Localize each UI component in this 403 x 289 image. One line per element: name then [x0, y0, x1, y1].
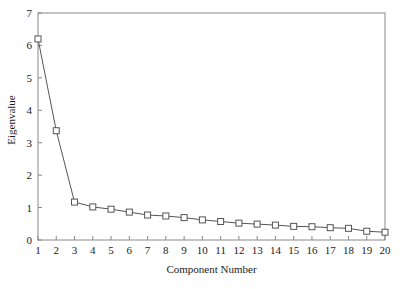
data-point-marker	[382, 229, 388, 235]
x-tick-label: 11	[215, 244, 226, 256]
x-tick-label: 18	[343, 244, 355, 256]
data-point-marker	[72, 199, 78, 205]
plot-canvas: 012345671234567891011121314151617181920	[0, 0, 403, 289]
data-point-marker	[108, 206, 114, 212]
x-tick-label: 5	[108, 244, 114, 256]
data-point-marker	[181, 215, 187, 221]
y-tick-label: 4	[27, 104, 33, 116]
data-point-marker	[199, 217, 205, 223]
y-tick-label: 5	[27, 72, 33, 84]
x-tick-label: 6	[127, 244, 133, 256]
y-tick-label: 2	[27, 169, 33, 181]
y-tick-label: 6	[27, 39, 33, 51]
x-tick-label: 13	[252, 244, 264, 256]
data-point-marker	[272, 222, 278, 228]
data-point-marker	[218, 219, 224, 225]
data-point-marker	[327, 225, 333, 231]
data-point-marker	[254, 221, 260, 227]
x-tick-label: 3	[72, 244, 78, 256]
y-tick-label: 1	[27, 202, 33, 214]
data-point-marker	[309, 224, 315, 230]
data-point-marker	[145, 212, 151, 218]
data-point-marker	[53, 128, 59, 134]
data-point-marker	[126, 209, 132, 215]
scree-plot-figure: Eigenvalue 01234567123456789101112131415…	[0, 0, 403, 289]
x-tick-label: 16	[306, 244, 318, 256]
x-tick-label: 4	[90, 244, 96, 256]
data-point-marker	[35, 36, 41, 42]
x-axis-title: Component Number	[38, 263, 385, 275]
x-tick-label: 15	[288, 244, 300, 256]
y-tick-label: 7	[27, 7, 33, 19]
x-tick-label: 1	[35, 244, 41, 256]
data-line	[38, 39, 385, 232]
y-tick-label: 0	[27, 234, 33, 246]
x-tick-label: 10	[197, 244, 209, 256]
x-tick-label: 8	[163, 244, 169, 256]
x-tick-label: 19	[361, 244, 373, 256]
data-point-marker	[345, 225, 351, 231]
x-tick-label: 7	[145, 244, 151, 256]
data-point-marker	[364, 228, 370, 234]
x-tick-label: 12	[233, 244, 244, 256]
x-tick-label: 20	[380, 244, 392, 256]
data-point-marker	[163, 213, 169, 219]
data-point-marker	[291, 223, 297, 229]
x-tick-label: 9	[181, 244, 187, 256]
data-point-marker	[90, 204, 96, 210]
data-point-marker	[236, 220, 242, 226]
x-tick-label: 2	[54, 244, 60, 256]
y-tick-label: 3	[27, 137, 33, 149]
x-tick-label: 17	[325, 244, 337, 256]
x-tick-label: 14	[270, 244, 282, 256]
